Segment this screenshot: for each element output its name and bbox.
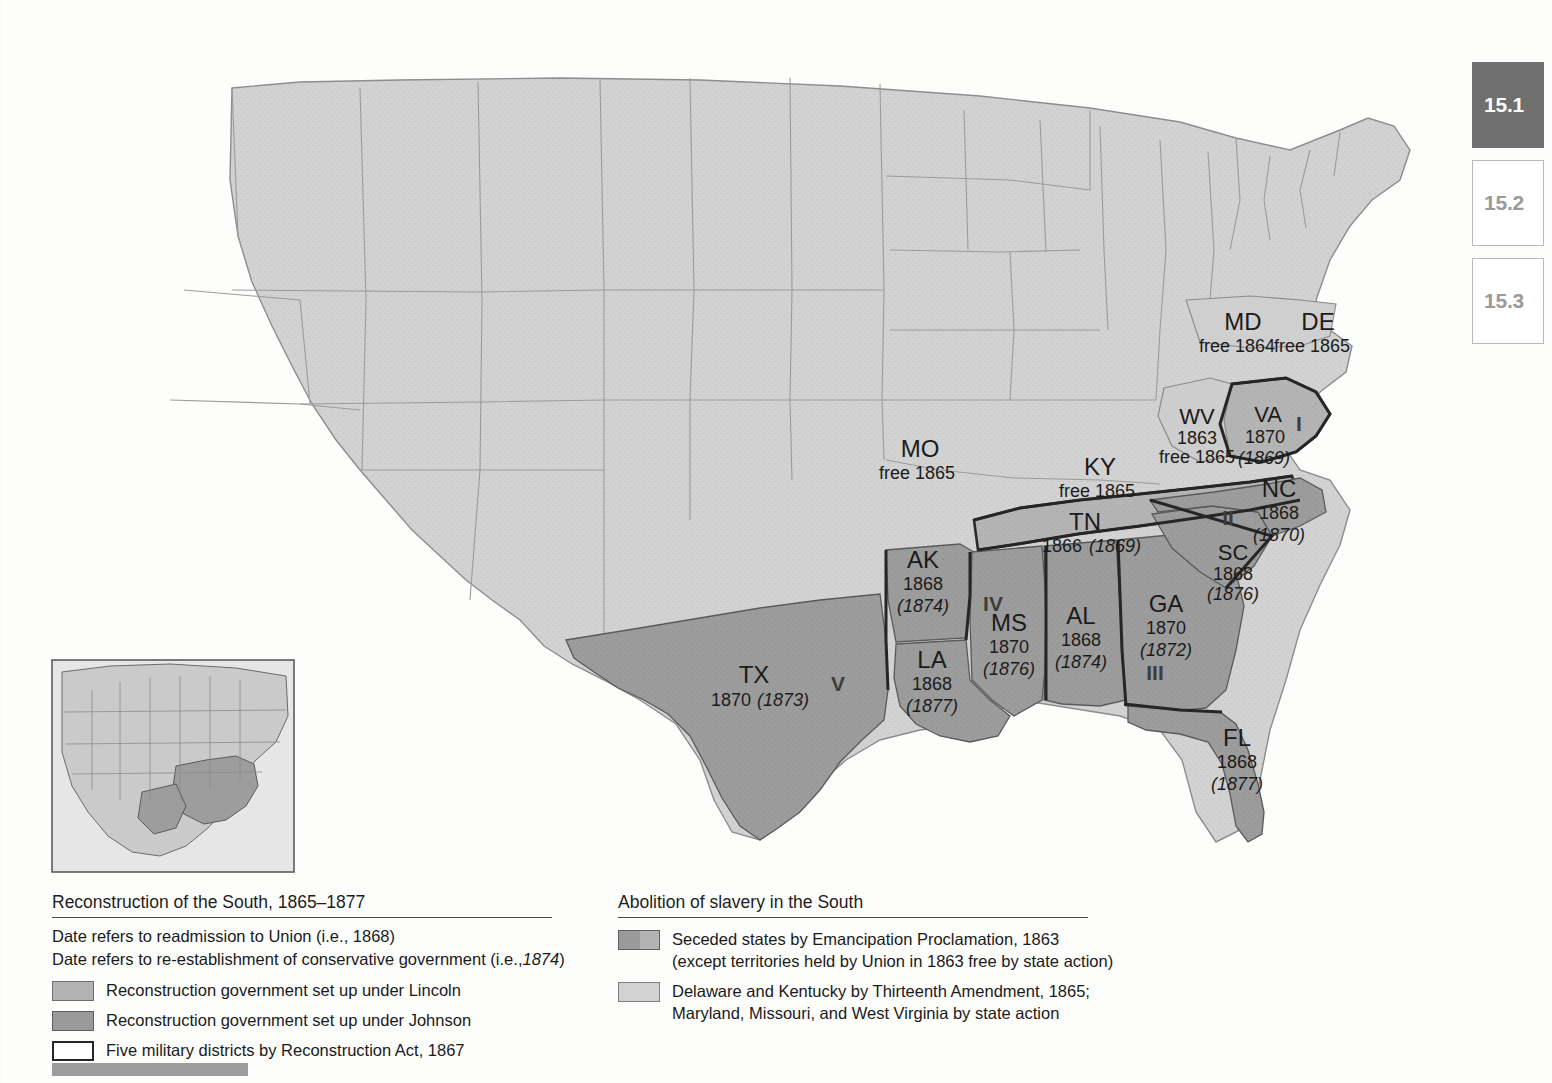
- legend-label-seceded: Seceded states by Emancipation Proclamat…: [672, 928, 1113, 972]
- legend-label-thirteenth-amendment: Delaware and Kentucky by Thirteenth Amen…: [672, 980, 1090, 1024]
- svg-text:MO: MO: [901, 435, 940, 462]
- legend-reconstruction: Reconstruction of the South, 1865–1877 D…: [52, 892, 552, 1061]
- legend-reconstruction-title: Reconstruction of the South, 1865–1877: [52, 892, 552, 918]
- svg-text:(1877): (1877): [1211, 774, 1263, 794]
- svg-text:free 1865: free 1865: [1159, 447, 1235, 467]
- svg-text:free 1865: free 1865: [1274, 336, 1350, 356]
- svg-text:MD: MD: [1224, 308, 1261, 335]
- svg-text:(1872): (1872): [1140, 640, 1192, 660]
- district-marker-IV: IV: [983, 592, 1003, 615]
- svg-text:1868: 1868: [1217, 752, 1257, 772]
- inset-locator-map: [52, 660, 294, 872]
- svg-text:TN: TN: [1069, 508, 1101, 535]
- svg-text:1863: 1863: [1177, 428, 1217, 448]
- legend-label-thirteenth-line1: Delaware and Kentucky by Thirteenth Amen…: [672, 980, 1090, 1002]
- svg-text:1868: 1868: [1061, 630, 1101, 650]
- svg-text:(1877): (1877): [906, 696, 958, 716]
- svg-text:VA: VA: [1254, 402, 1282, 427]
- section-tab-15-3[interactable]: 15.3: [1472, 258, 1544, 344]
- section-tab-label: 15.1: [1484, 93, 1524, 117]
- legend-label-johnson: Reconstruction government set up under J…: [106, 1009, 471, 1031]
- legend-label-seceded-line2: (except territories held by Union in 186…: [672, 950, 1113, 972]
- legend-label-lincoln: Reconstruction government set up under L…: [106, 979, 461, 1001]
- svg-text:1868: 1868: [903, 574, 943, 594]
- section-tabs[interactable]: 15.1 15.2 15.3: [1472, 62, 1546, 344]
- legend-note-conservative-text: Date refers to re-establishment of conse…: [52, 950, 522, 968]
- svg-text:(1870): (1870): [1253, 525, 1305, 545]
- svg-text:1870: 1870: [711, 690, 751, 710]
- svg-text:LA: LA: [917, 646, 946, 673]
- legend-note-readmission-text: Date refers to readmission to Union (i.e…: [52, 927, 395, 945]
- legend-swatch-lincoln: [52, 981, 94, 1001]
- legend-abolition: Abolition of slavery in the South Secede…: [618, 892, 1088, 1061]
- legend-abolition-title: Abolition of slavery in the South: [618, 892, 1088, 918]
- legend-item-military-districts: Five military districts by Reconstructio…: [52, 1039, 552, 1061]
- svg-text:free 1864: free 1864: [1199, 336, 1275, 356]
- svg-text:GA: GA: [1149, 590, 1184, 617]
- section-tab-label: 15.3: [1484, 289, 1524, 313]
- svg-text:1868: 1868: [912, 674, 952, 694]
- legend-note-conservative-year: 1874: [522, 950, 559, 968]
- svg-text:free 1865: free 1865: [879, 463, 955, 483]
- svg-text:1870: 1870: [1245, 427, 1285, 447]
- svg-text:KY: KY: [1084, 453, 1116, 480]
- reconstruction-map-figure: MD free 1864 DE free 1865 WV 1863 free 1…: [0, 0, 1460, 880]
- section-tab-label: 15.2: [1484, 191, 1524, 215]
- section-tab-15-1[interactable]: 15.1: [1472, 62, 1544, 148]
- svg-text:free 1865: free 1865: [1059, 481, 1135, 501]
- legend-note-readmission: Date refers to readmission to Union (i.e…: [52, 925, 552, 947]
- legend-swatch-seceded: [618, 930, 660, 950]
- legend-swatch-thirteenth-amendment: [618, 982, 660, 1002]
- svg-text:(1876): (1876): [983, 659, 1035, 679]
- svg-text:1868: 1868: [1213, 564, 1253, 584]
- map-legends: Reconstruction of the South, 1865–1877 D…: [52, 892, 1112, 1061]
- svg-text:(1869): (1869): [1089, 536, 1141, 556]
- legend-note-conservative: Date refers to re-establishment of conse…: [52, 948, 552, 970]
- svg-text:SC: SC: [1218, 540, 1249, 565]
- district-marker-I: I: [1296, 412, 1302, 435]
- bottom-decorative-bar: [52, 1063, 248, 1076]
- legend-item-seceded: Seceded states by Emancipation Proclamat…: [618, 928, 1088, 972]
- svg-text:AL: AL: [1066, 602, 1095, 629]
- svg-text:(1876): (1876): [1207, 584, 1259, 604]
- svg-text:FL: FL: [1223, 724, 1251, 751]
- svg-text:1870: 1870: [989, 637, 1029, 657]
- legend-item-johnson: Reconstruction government set up under J…: [52, 1009, 552, 1031]
- svg-text:(1869): (1869): [1238, 448, 1290, 468]
- legend-swatch-military-district: [52, 1041, 94, 1061]
- legend-item-lincoln: Reconstruction government set up under L…: [52, 979, 552, 1001]
- svg-text:WV: WV: [1179, 404, 1215, 429]
- svg-text:DE: DE: [1301, 308, 1334, 335]
- svg-text:(1874): (1874): [1055, 652, 1107, 672]
- svg-text:(1874): (1874): [897, 596, 949, 616]
- svg-text:TX: TX: [739, 661, 770, 688]
- svg-text:1866: 1866: [1042, 536, 1082, 556]
- district-marker-III: III: [1146, 661, 1164, 684]
- map-svg: MD free 1864 DE free 1865 WV 1863 free 1…: [0, 0, 1460, 880]
- section-tab-15-2[interactable]: 15.2: [1472, 160, 1544, 246]
- svg-text:(1873): (1873): [757, 690, 809, 710]
- svg-text:AK: AK: [907, 546, 939, 573]
- legend-item-thirteenth-amendment: Delaware and Kentucky by Thirteenth Amen…: [618, 980, 1088, 1024]
- legend-label-seceded-line1: Seceded states by Emancipation Proclamat…: [672, 928, 1113, 950]
- legend-swatch-johnson: [52, 1011, 94, 1031]
- legend-label-military-districts: Five military districts by Reconstructio…: [106, 1039, 465, 1061]
- legend-note-conservative-paren: ): [559, 950, 565, 968]
- district-marker-II: II: [1222, 506, 1234, 529]
- svg-text:1870: 1870: [1146, 618, 1186, 638]
- svg-text:1868: 1868: [1259, 503, 1299, 523]
- svg-text:NC: NC: [1262, 475, 1297, 502]
- district-marker-V: V: [831, 672, 845, 695]
- legend-label-thirteenth-line2: Maryland, Missouri, and West Virginia by…: [672, 1002, 1090, 1024]
